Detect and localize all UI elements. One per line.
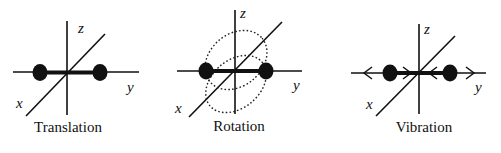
atom-left [199, 63, 214, 80]
x-axis-label: x [174, 100, 182, 116]
z-axis-label: z [77, 20, 84, 36]
y-axis-label: y [473, 79, 482, 95]
molecular-motion-diagram: z y x Translation z y x Rotation z y x V… [0, 0, 501, 153]
x-axis-label: x [365, 96, 373, 112]
atom-left [383, 65, 398, 82]
atom-right [259, 63, 274, 80]
atom-left [33, 64, 48, 81]
atom-right [443, 65, 458, 82]
x-axis-label: x [15, 95, 23, 111]
y-axis-label: y [291, 77, 300, 93]
panel-rotation: z y x Rotation [174, 5, 302, 134]
z-axis-label: z [423, 21, 430, 37]
rotation-path-upper [193, 18, 279, 102]
panel-translation: z y x Translation [13, 20, 139, 135]
panel-vibration: z y x Vibration [351, 21, 486, 135]
atom-right [93, 64, 108, 81]
y-axis-label: y [125, 79, 134, 95]
caption-vibration: Vibration [396, 119, 453, 135]
z-axis-label: z [239, 5, 246, 21]
caption-rotation: Rotation [213, 118, 265, 134]
caption-translation: Translation [34, 119, 102, 135]
